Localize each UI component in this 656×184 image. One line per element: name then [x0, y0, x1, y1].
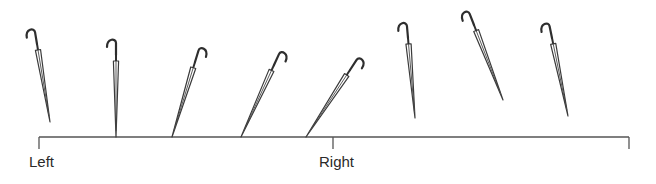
- umbrella-hook: [195, 48, 206, 62]
- umbrella-seam: [553, 44, 567, 110]
- umbrella-seam: [476, 31, 501, 95]
- umbrella-seam: [243, 70, 271, 131]
- umbrella-hook: [274, 52, 286, 65]
- umbrella-icon: [172, 48, 206, 137]
- umbrella-group: [27, 12, 568, 137]
- umbrella-hook: [350, 58, 364, 70]
- umbrella-diagram: Left Right: [0, 0, 656, 184]
- umbrella-icon: [462, 12, 503, 100]
- umbrella-seam: [174, 68, 193, 132]
- umbrella-hook: [398, 23, 408, 38]
- umbrella-hook: [462, 12, 474, 25]
- umbrella-icon: [306, 58, 364, 137]
- right-label: Right: [319, 154, 354, 169]
- umbrella-hook: [541, 24, 552, 38]
- umbrella-hook: [27, 29, 37, 44]
- umbrella-icon: [27, 29, 50, 122]
- umbrella-icon: [107, 40, 119, 137]
- left-label: Left: [29, 154, 54, 169]
- umbrella-seam: [38, 50, 49, 116]
- umbrella-icon: [241, 52, 286, 137]
- umbrella-icon: [398, 23, 415, 118]
- umbrella-seam: [309, 75, 346, 132]
- umbrella-hook: [107, 40, 116, 55]
- baseline-axis: [39, 137, 629, 149]
- umbrella-icon: [541, 24, 568, 116]
